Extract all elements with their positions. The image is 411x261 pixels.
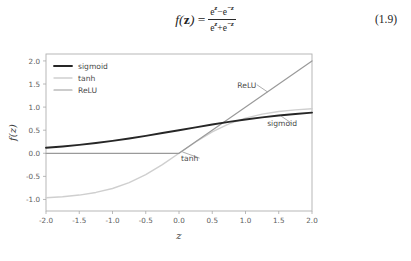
numerator-exponent-2: −z xyxy=(227,4,234,12)
y-tick-label: 0.0 xyxy=(29,149,41,158)
x-tick-label: -1.0 xyxy=(105,216,119,225)
annotation-label-relu: ReLU xyxy=(237,81,256,90)
x-tick-label: 0.0 xyxy=(173,216,185,225)
equation-paren-close: ) xyxy=(190,12,195,27)
equation-numerator: ez−e−z xyxy=(208,5,236,21)
annotation-label-tanh: tanh xyxy=(181,154,198,163)
numerator-base-1: e xyxy=(210,7,214,17)
equation-fraction: ez−e−z ez+e−z xyxy=(208,5,236,35)
x-tick-label: -0.5 xyxy=(139,216,153,225)
x-tick-label: -1.5 xyxy=(72,216,86,225)
numerator-term-2: e−z xyxy=(223,7,234,17)
equation-equals-sign: = xyxy=(195,12,209,27)
equation-block: f(z)= ez−e−z ez+e−z (1.9) xyxy=(0,5,411,39)
x-tick-label: 1.5 xyxy=(273,216,284,225)
legend-label-tanh: tanh xyxy=(78,74,95,83)
y-tick-label: 0.5 xyxy=(29,126,40,135)
y-tick-label: -0.5 xyxy=(26,172,40,181)
equation-denominator: ez+e−z xyxy=(208,20,236,35)
activation-functions-chart: -2.0-1.5-1.0-0.50.00.51.01.52.0z2.01.51.… xyxy=(0,44,360,249)
legend-label-relu: ReLU xyxy=(78,86,97,95)
denominator-base-1: e xyxy=(210,23,214,33)
y-axis-label: f(z) xyxy=(7,124,18,142)
equation-expression: f(z)= ez−e−z ez+e−z xyxy=(175,5,236,35)
equation-display: f(z)= ez−e−z ez+e−z xyxy=(0,5,411,35)
y-tick-label: -1.0 xyxy=(26,195,40,204)
annotation-label-sigmoid: sigmoid xyxy=(267,119,297,128)
numerator-exponent-1: z xyxy=(215,4,218,12)
legend-label-sigmoid: sigmoid xyxy=(78,62,108,71)
x-axis-label: z xyxy=(175,230,182,241)
x-tick-label: 1.0 xyxy=(240,216,252,225)
y-tick-label: 1.0 xyxy=(29,103,41,112)
page-bottom-text-sliver xyxy=(0,257,411,261)
x-tick-label: 2.0 xyxy=(306,216,318,225)
denominator-term-2: e−z xyxy=(223,23,234,33)
denominator-exponent-2: −z xyxy=(227,20,234,28)
y-tick-label: 2.0 xyxy=(29,57,41,66)
y-tick-label: 1.5 xyxy=(29,80,40,89)
x-tick-label: 0.5 xyxy=(207,216,218,225)
denominator-exponent-1: z xyxy=(215,20,218,28)
equation-number: (1.9) xyxy=(375,13,397,25)
x-tick-label: -2.0 xyxy=(39,216,53,225)
equation-left-hand-side: f(z) xyxy=(175,12,195,27)
chart-canvas: -2.0-1.5-1.0-0.50.00.51.01.52.0z2.01.51.… xyxy=(0,44,360,249)
